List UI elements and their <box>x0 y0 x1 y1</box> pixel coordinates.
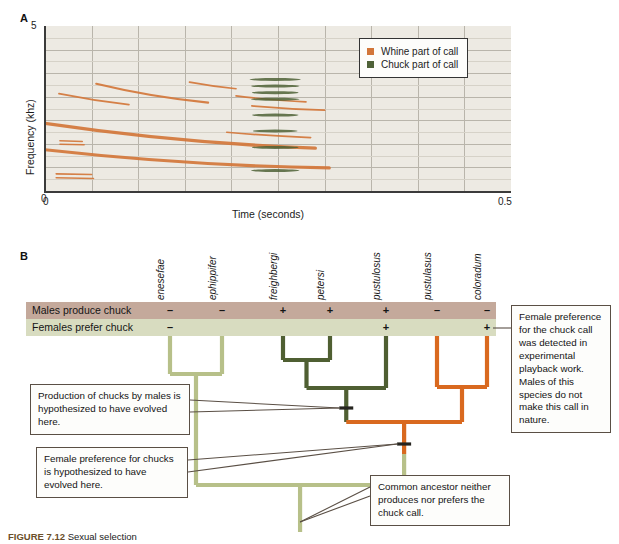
whine-trace <box>56 174 91 175</box>
x-axis-line <box>44 191 511 193</box>
chuck-band <box>250 78 301 81</box>
y-axis-label: Frequency (khz) <box>24 99 36 175</box>
panel-b-phylogeny: B P. enesefaeP. ephippiferP. freighbergi… <box>0 232 619 544</box>
chart-legend: Whine part of call Chuck part of call <box>359 38 468 78</box>
caption-label: FIGURE 7.12 <box>8 531 65 542</box>
whine-trace <box>60 141 82 142</box>
callout-common-ancestor: Common ancestor neither produces nor pre… <box>370 475 510 526</box>
caption-text: Sexual selection <box>68 531 137 542</box>
y-axis-tick-max: 5 <box>31 20 37 31</box>
callout-female-preference: Female preference for chucks is hypothes… <box>36 447 188 498</box>
whine-trace <box>252 106 325 110</box>
callout-leader-line <box>300 487 370 522</box>
whine-trace <box>60 144 84 145</box>
x-axis-tick-max: 0.5 <box>498 196 512 207</box>
whine-trace <box>96 84 208 103</box>
callout-leader-line <box>190 408 339 412</box>
panel-a-spectrogram: A 5 0 0 0.5 Frequency (khz) Time (second… <box>0 0 619 225</box>
chuck-band <box>252 114 299 117</box>
chuck-band <box>253 129 298 132</box>
legend-label-whine: Whine part of call <box>381 46 458 57</box>
legend-swatch-whine <box>367 48 374 55</box>
panel-a-letter: A <box>20 12 28 24</box>
callout-leader-line <box>190 400 339 408</box>
y-axis-line <box>44 26 46 192</box>
chuck-band <box>252 91 299 94</box>
chuck-band <box>251 98 299 101</box>
chuck-band <box>251 169 299 172</box>
legend-item-whine: Whine part of call <box>367 46 458 57</box>
whine-trace <box>45 150 329 168</box>
figure-caption: FIGURE 7.12 Sexual selection <box>8 531 137 542</box>
callout-playback-note: Female preference for the chuck call was… <box>511 305 611 433</box>
whine-trace <box>189 82 236 89</box>
chuck-band <box>251 85 299 88</box>
whine-trace <box>56 178 93 179</box>
legend-label-chuck: Chuck part of call <box>381 59 458 70</box>
whine-trace <box>227 132 311 137</box>
legend-swatch-chuck <box>367 61 374 68</box>
callout-leader-line <box>300 496 370 522</box>
chuck-band <box>252 146 299 149</box>
callout-chuck-production: Production of chucks by males is hypothe… <box>30 384 190 435</box>
whine-trace <box>59 94 129 105</box>
legend-item-chuck: Chuck part of call <box>367 59 458 70</box>
x-axis-label: Time (seconds) <box>232 208 304 220</box>
x-axis-tick-min: 0 <box>43 196 49 207</box>
